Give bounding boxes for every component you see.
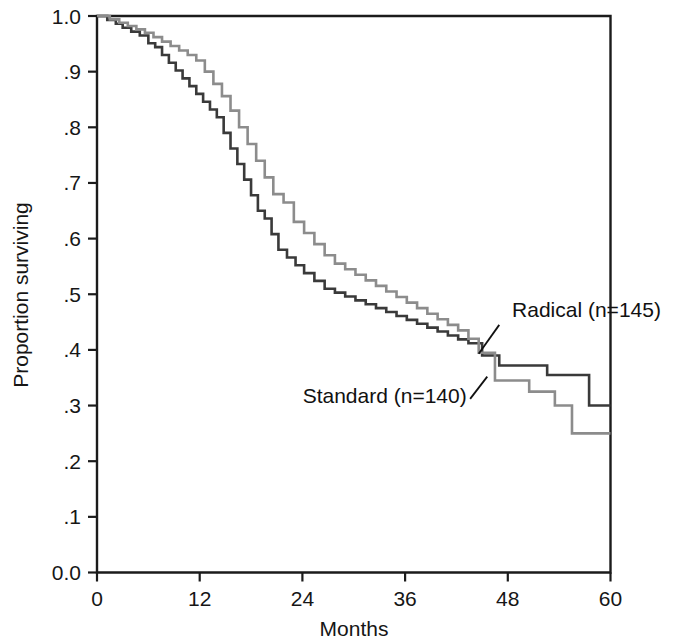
standard-annotation-label: Standard (n=140) (303, 384, 467, 407)
x-axis-title: Months (320, 617, 389, 640)
y-axis-title: Proportion surviving (9, 202, 32, 388)
y-tick-label: 1.0 (52, 5, 81, 28)
km-survival-figure: 0.0.1.2.3.4.5.6.7.8.91.0 01224364860 Pro… (0, 0, 693, 640)
x-tick-label: 36 (393, 587, 416, 610)
y-tick-label: .6 (63, 227, 81, 250)
y-tick-label: .8 (63, 116, 81, 139)
y-tick-label: .7 (63, 171, 81, 194)
y-tick-label: .4 (63, 338, 81, 361)
kaplan-meier-chart: 0.0.1.2.3.4.5.6.7.8.91.0 01224364860 Pro… (0, 0, 693, 640)
x-tick-label: 12 (188, 587, 211, 610)
y-tick-label: .3 (63, 394, 81, 417)
y-tick-label: .5 (63, 283, 81, 306)
x-tick-label: 0 (91, 587, 103, 610)
y-tick-label: .2 (63, 450, 81, 473)
x-tick-label: 60 (599, 587, 622, 610)
radical-annotation-label: Radical (n=145) (512, 298, 661, 321)
y-tick-label: .1 (63, 505, 81, 528)
y-tick-label: .9 (63, 60, 81, 83)
x-tick-label: 48 (496, 587, 519, 610)
x-tick-label: 24 (291, 587, 315, 610)
y-tick-label: 0.0 (52, 561, 81, 584)
